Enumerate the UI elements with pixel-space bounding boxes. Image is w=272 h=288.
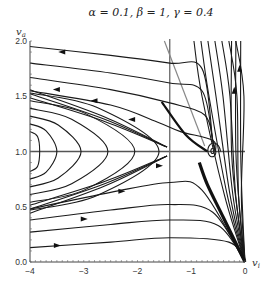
x-tick-label: −3 bbox=[79, 266, 89, 276]
direction-arrow-icon bbox=[91, 98, 98, 103]
direction-arrow-icon bbox=[53, 87, 60, 92]
phase-portrait-chart: −4−3−2−100.00.51.01.52.0vavi bbox=[0, 0, 272, 288]
direction-arrow-icon bbox=[81, 216, 88, 221]
trajectories bbox=[30, 39, 245, 262]
trajectory bbox=[30, 205, 245, 262]
direction-arrow-icon bbox=[54, 243, 61, 248]
trajectory bbox=[30, 238, 245, 262]
x-tick-label: −1 bbox=[186, 266, 196, 276]
nullcline-diagonal bbox=[164, 41, 204, 146]
y-tick-label: 1.5 bbox=[15, 91, 27, 101]
trajectory bbox=[30, 220, 245, 262]
y-tick-label: 0.5 bbox=[15, 202, 27, 212]
separatrix-bundle bbox=[30, 98, 167, 147]
direction-arrow-icon bbox=[128, 117, 135, 122]
y-tick-label: 0.0 bbox=[15, 257, 27, 267]
y-tick-label: 1.0 bbox=[15, 147, 27, 157]
x-tick-label: −2 bbox=[133, 266, 143, 276]
separatrix-bundle bbox=[30, 156, 167, 205]
x-tick-label: 0 bbox=[243, 266, 248, 276]
x-tick-label: −4 bbox=[25, 266, 35, 276]
x-axis-label: vi bbox=[252, 257, 260, 270]
direction-arrow-icon bbox=[156, 163, 163, 168]
